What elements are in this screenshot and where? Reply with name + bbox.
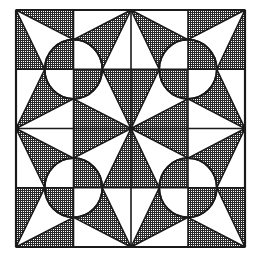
quilt-pattern <box>0 0 253 262</box>
